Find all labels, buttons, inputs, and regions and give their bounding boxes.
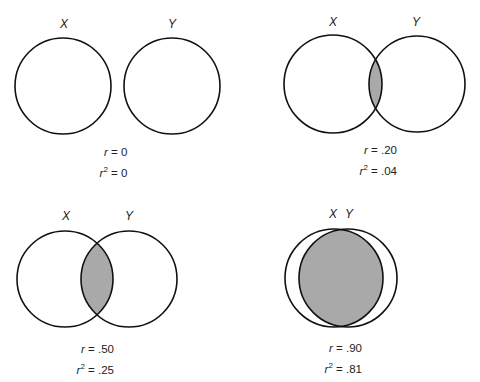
venn-panel-r50	[17, 231, 177, 327]
circle-x	[284, 35, 382, 133]
venn-diagram-canvas	[0, 0, 480, 382]
r-squared-value: r2 = 0	[98, 161, 127, 182]
venn-panel-r0	[15, 38, 220, 134]
stat-block: r = 0 r2 = 0	[98, 144, 127, 182]
stat-block: r = .90 r2 = .81	[323, 340, 362, 378]
r-value: r = .20	[358, 142, 397, 159]
r-value: r = .90	[323, 340, 362, 357]
label-x: X	[329, 207, 337, 221]
r-squared-value: r2 = .81	[323, 357, 362, 378]
label-y: Y	[125, 209, 133, 223]
label-y: Y	[412, 15, 420, 29]
label-x: X	[60, 17, 68, 31]
circle-x	[15, 38, 111, 134]
r-value: r = .50	[75, 341, 114, 358]
venn-panel-r90	[285, 229, 397, 327]
r-squared-value: r2 = .04	[358, 159, 397, 180]
label-x: X	[329, 15, 337, 29]
label-x: X	[62, 209, 70, 223]
venn-panel-r20	[284, 35, 465, 133]
stat-block: r = .50 r2 = .25	[75, 341, 114, 379]
circle-y	[369, 36, 465, 132]
circle-y	[124, 38, 220, 134]
r-value: r = 0	[98, 144, 127, 161]
label-y: Y	[168, 17, 176, 31]
stat-block: r = .20 r2 = .04	[358, 142, 397, 180]
r-squared-value: r2 = .25	[75, 358, 114, 379]
label-y: Y	[345, 207, 353, 221]
